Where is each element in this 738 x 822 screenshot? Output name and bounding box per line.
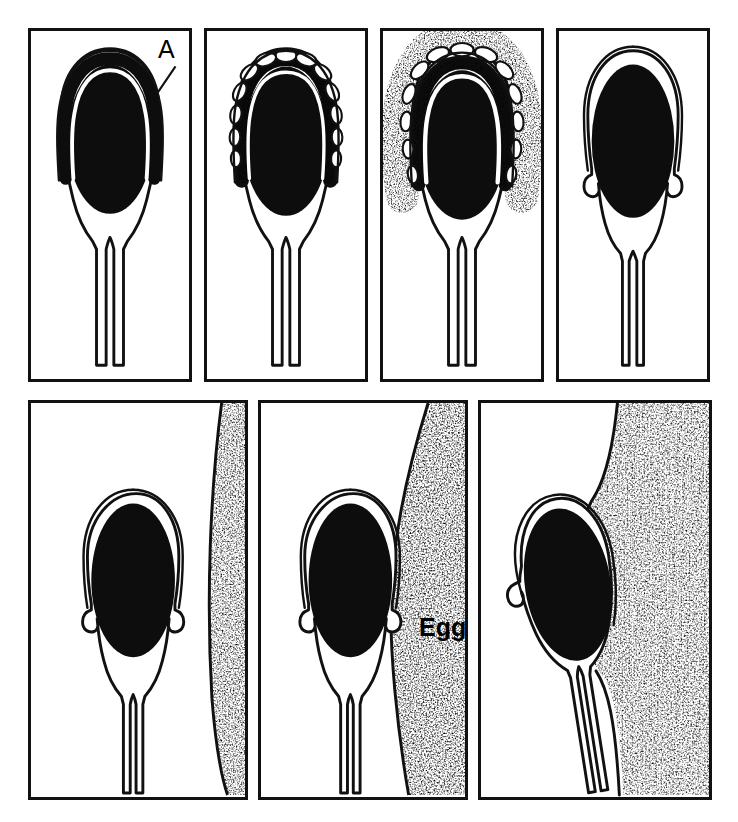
panel-2-art — [207, 31, 365, 379]
panel-1-art — [31, 31, 189, 379]
panel-engulfment — [478, 400, 712, 800]
panel-bare-nucleus — [556, 28, 710, 382]
panel-approach-egg — [28, 400, 248, 800]
panel-vesicles-dispersing — [380, 28, 544, 382]
panel-6-art — [261, 403, 465, 797]
panel-vesiculation-begins — [204, 28, 368, 382]
label-egg: Egg — [419, 615, 466, 640]
acrosome-reaction-figure: A — [0, 0, 738, 822]
panel-3-art — [383, 31, 541, 379]
label-acrosome: A — [158, 37, 175, 62]
panel-7-art — [481, 403, 709, 797]
panel-contact-egg: Egg — [258, 400, 468, 800]
panel-4-art — [559, 31, 707, 379]
panel-5-art — [31, 403, 245, 797]
panel-intact-acrosome: A — [28, 28, 192, 382]
